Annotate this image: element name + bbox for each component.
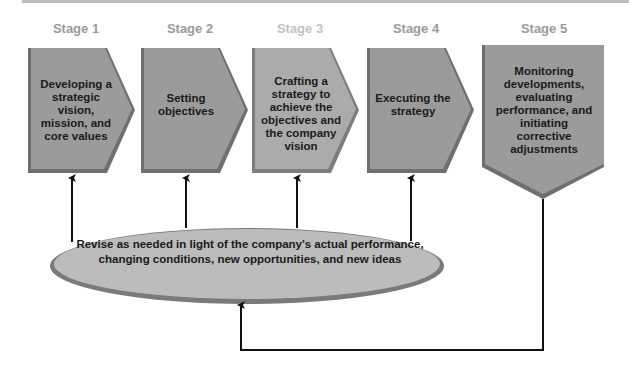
revise-text: Revise as needed in light of the company… (70, 237, 430, 266)
stage-1-text: Developing a strategic vision, mission, … (34, 70, 118, 150)
stage-5-label: Stage 5 (489, 21, 599, 36)
stage-2-text: Setting objectives (147, 70, 225, 140)
stage-5-text: Monitoring developments, evaluating perf… (494, 60, 594, 160)
process-diagram (0, 0, 629, 371)
stage-1-label: Stage 1 (21, 21, 131, 36)
stage-4-text: Executing the strategy (372, 70, 454, 140)
stage-3-text: Crafting a strategy to achieve the objec… (258, 70, 344, 158)
stage-4-label: Stage 4 (361, 21, 471, 36)
stage-2-label: Stage 2 (135, 21, 245, 36)
stage-3-label: Stage 3 (245, 21, 355, 36)
